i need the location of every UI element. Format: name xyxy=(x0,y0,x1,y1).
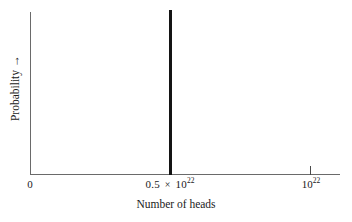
x-axis-tick-label-midpoint-mantissa: 0.5 xyxy=(145,178,159,190)
probability-distribution-figure: 0 0.5 × 1022 1022 Number of heads Probab… xyxy=(0,0,352,222)
arrow-right-icon: → xyxy=(8,54,23,69)
x-axis-tick-label-right: 1022 xyxy=(302,178,321,190)
x-axis-tick-label-right-exponent: 22 xyxy=(313,176,321,185)
x-axis-tick-label-midpoint-base: 10 xyxy=(176,178,187,190)
x-axis-tick-label-right-base: 10 xyxy=(302,178,313,190)
x-axis-tick-label-zero: 0 xyxy=(27,178,33,190)
x-axis-tick-mark-right xyxy=(310,166,311,175)
y-axis-title: Probability→ xyxy=(8,54,23,120)
x-axis-tick-label-zero-text: 0 xyxy=(27,178,33,190)
x-axis-tick-label-midpoint: 0.5 × 1022 xyxy=(145,178,194,191)
probability-spike-delta-function xyxy=(169,10,172,175)
x-axis-line xyxy=(30,174,340,175)
y-axis-line xyxy=(30,12,31,175)
y-axis-title-text: Probability xyxy=(9,69,21,120)
multiplication-sign-icon: × xyxy=(163,179,173,191)
y-axis-title-container: Probability→ xyxy=(0,0,30,175)
x-axis-tick-label-midpoint-exponent: 22 xyxy=(187,176,195,185)
x-axis-title: Number of heads xyxy=(136,198,215,210)
